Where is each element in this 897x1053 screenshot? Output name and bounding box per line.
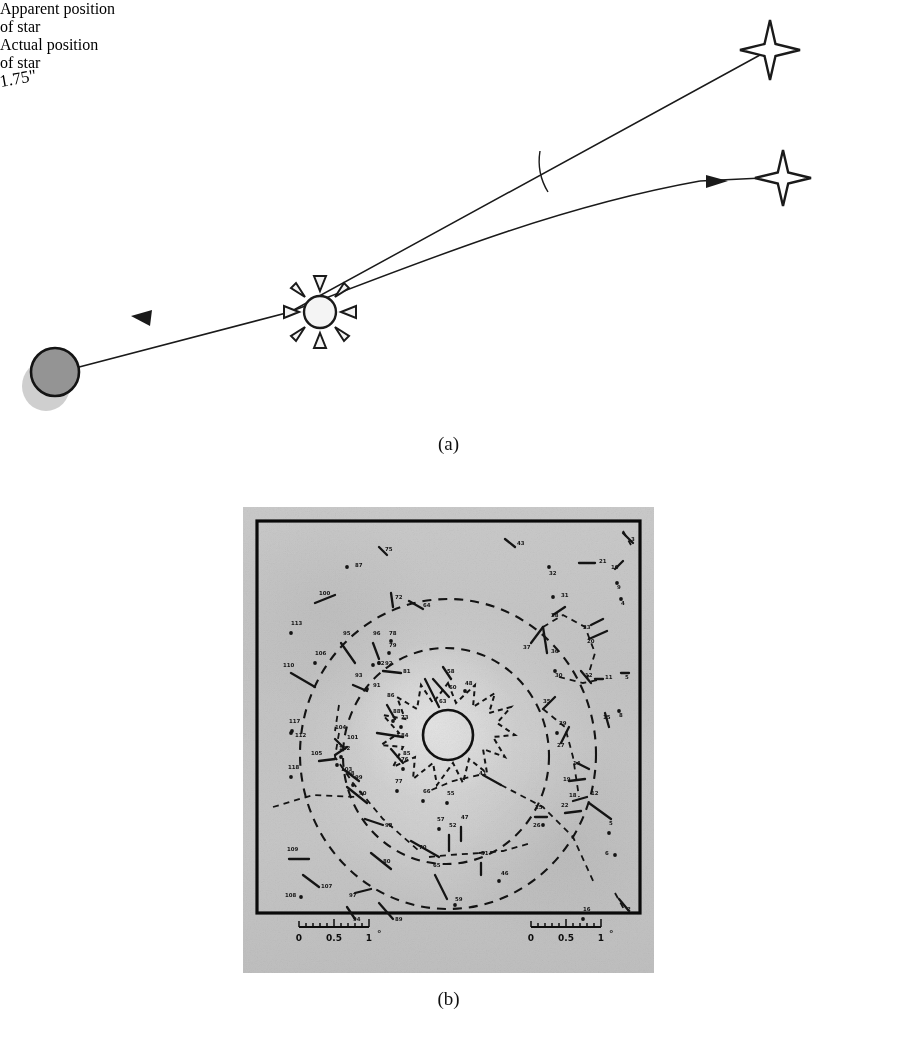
star-displacement-vector <box>315 595 335 603</box>
star-number-label: 118 <box>288 764 300 770</box>
star-marker: 117 <box>289 718 301 733</box>
star-dot <box>421 799 425 803</box>
deflected-light-ray <box>292 181 700 311</box>
star-marker: 26 <box>533 822 545 828</box>
star-marker: 8 <box>617 709 623 718</box>
star-displacement-vector <box>505 539 515 547</box>
scale-bar-right: 0 0.5 1 ° <box>528 919 614 943</box>
star-dot <box>497 879 501 883</box>
star-number-label: 29 <box>559 720 567 726</box>
star-number-label: 52 <box>449 822 457 828</box>
star-marker: 66 <box>421 788 431 803</box>
star-displacement-vector <box>589 803 611 819</box>
star-number-label: 12 <box>585 672 593 678</box>
star-number-label: 6 <box>605 850 609 856</box>
star-number-label: 92 <box>385 822 393 828</box>
inner-dashed-contour <box>343 648 549 864</box>
star-number-label: 8 <box>619 712 623 718</box>
star-dot <box>399 725 403 729</box>
scale-left-tick-05: 0.5 <box>326 933 342 943</box>
star-number-label: 86 <box>387 692 395 698</box>
star-marker: 107 <box>303 875 333 889</box>
star-number-label: 48 <box>465 680 473 686</box>
star-number-label: 95 <box>343 630 351 636</box>
star-dot <box>607 831 611 835</box>
panel-a-deflection-diagram: Apparent position of star Actual positio… <box>0 0 897 420</box>
star-displacement-vector <box>319 759 335 761</box>
scale-right-tick-0: 0 <box>528 933 534 943</box>
star-number-label: 79 <box>389 642 397 648</box>
star-number-label: 31 <box>561 592 569 598</box>
star-number-label: 65 <box>433 862 441 868</box>
star-marker: 35 <box>543 697 555 709</box>
star-marker: 112 <box>289 731 306 738</box>
star-number-label: 107 <box>321 883 333 889</box>
star-number-label: 84 <box>401 732 409 738</box>
star-marker: 72 <box>391 593 403 607</box>
star-marker: 25 <box>535 804 547 817</box>
star-marker: 11 <box>595 674 613 680</box>
star-number-label: 97 <box>349 892 357 898</box>
star-marker: 106 <box>313 650 326 665</box>
star-number-label: 117 <box>289 718 301 724</box>
star-number-label: 75 <box>385 546 393 552</box>
star-dot <box>339 755 343 759</box>
star-number-label: 112 <box>295 732 307 738</box>
star-displacement-vector <box>383 671 401 673</box>
star-number-label: 10 <box>611 564 619 570</box>
star-number-label: 104 <box>335 724 347 730</box>
star-marker: 2 <box>619 899 631 912</box>
outer-dashed-contour <box>300 599 596 909</box>
star-marker: 100 <box>315 590 335 603</box>
star-dot <box>547 565 551 569</box>
star-number-label: 77 <box>395 778 403 784</box>
star-marker: 55 <box>445 790 455 805</box>
apparent-star-icon <box>740 20 800 80</box>
star-dot <box>581 917 585 921</box>
star-dot <box>351 783 355 787</box>
star-marker: 52 <box>449 822 457 851</box>
star-dot <box>445 801 449 805</box>
star-number-label: 36 <box>551 648 559 654</box>
star-marker: 110 <box>283 662 315 687</box>
star-marker: 65 <box>433 862 447 899</box>
star-marker: 118 <box>288 764 300 779</box>
star-number-label: 16 <box>583 906 591 912</box>
star-marker: 21 <box>579 558 607 564</box>
star-number-label: 108 <box>285 892 297 898</box>
actual-ray-arrowhead <box>706 175 728 188</box>
plate-border <box>257 521 640 913</box>
star-displacement-vector <box>569 779 585 781</box>
star-marker: 18 <box>569 792 587 801</box>
star-marker: 30 <box>553 669 563 678</box>
star-number-label: 70 <box>419 844 427 850</box>
sun-icon <box>284 276 356 348</box>
star-marker: 19 <box>563 776 585 782</box>
star-marker: 96 <box>373 630 381 659</box>
star-displacement-vector <box>291 673 315 687</box>
star-displacement-vector <box>355 889 371 893</box>
star-marker: 108 <box>285 892 303 899</box>
star-number-label: 72 <box>395 594 403 600</box>
scale-right-tick-1: 1 <box>598 933 604 943</box>
star-number-label: 98 <box>347 770 355 776</box>
star-number-label: 105 <box>311 750 323 756</box>
star-number-label: 90 <box>359 790 367 796</box>
star-marker: 23 <box>583 619 603 630</box>
star-number-label: 88 <box>393 708 401 714</box>
radial-dashed-traces <box>273 531 631 911</box>
star-number-label: 20 <box>587 638 595 644</box>
star-marker: 36 <box>543 627 559 654</box>
star-marker: 75 <box>379 546 393 555</box>
star-number-label: 35 <box>543 698 551 704</box>
star-number-label: 2 <box>627 906 631 912</box>
star-marker: 28 <box>551 607 565 618</box>
star-number-label: 91 <box>373 682 381 688</box>
star-dot <box>371 663 375 667</box>
star-dot <box>387 651 391 655</box>
star-number-label: 27 <box>557 742 565 748</box>
star-dot <box>395 789 399 793</box>
star-marker: 109 <box>287 846 309 859</box>
star-number-label: 57 <box>437 816 445 822</box>
star-number-label: 37 <box>523 644 531 650</box>
